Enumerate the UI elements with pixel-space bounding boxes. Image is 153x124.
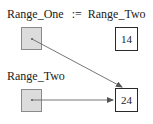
range-one-arrow	[31, 38, 122, 87]
range-two-arrow	[31, 99, 113, 101]
pointer-arrows	[0, 0, 153, 124]
